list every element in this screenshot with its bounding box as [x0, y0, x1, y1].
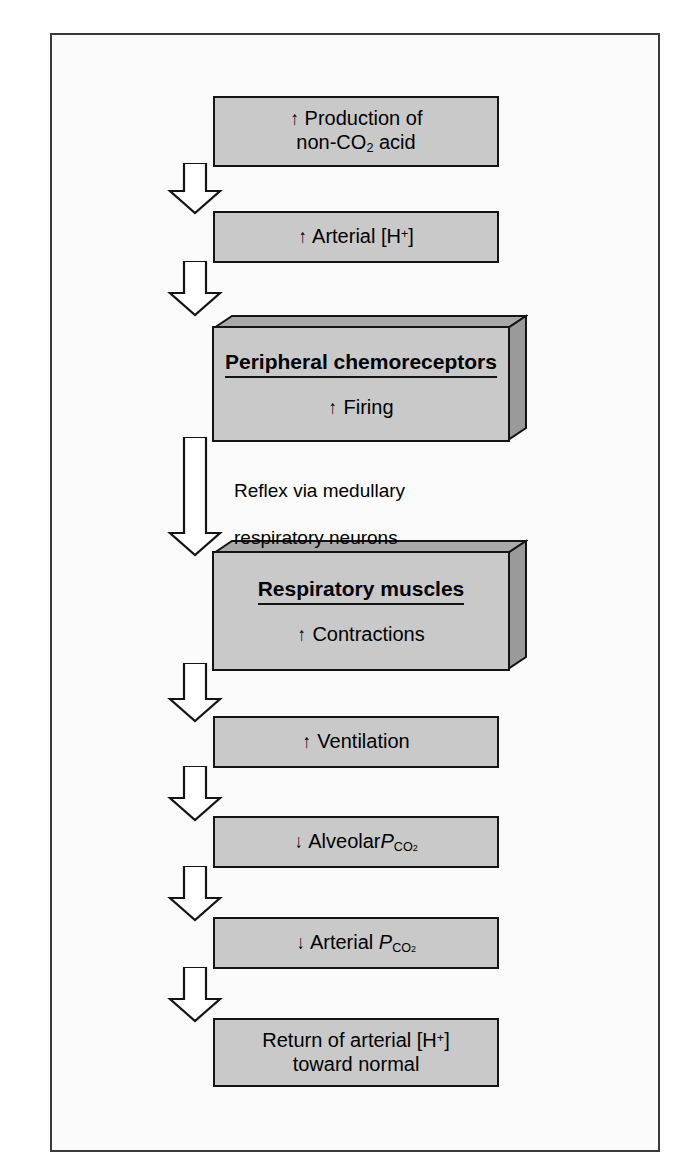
node-peripheral-chemoreceptors-title: Peripheral chemoreceptors [225, 350, 497, 378]
node-increased-ventilation: ↑ Ventilation [213, 716, 499, 768]
node-production-line2-tail: acid [373, 131, 415, 153]
node-peripheral-chemoreceptors-sub: ↑ Firing [328, 396, 393, 419]
increase-arrow-icon: ↑ [329, 397, 337, 419]
block-front-face: Respiratory muscles ↑ Contractions [212, 551, 510, 671]
node-alveolar-pco2-label: ↓ AlveolarPCO2 [215, 830, 497, 855]
flow-arrow-1 [166, 163, 224, 215]
increase-arrow-icon: ↑ [298, 624, 306, 646]
flow-arrow-4 [166, 663, 224, 723]
figure-root: ↑ Production of non-CO2 acid ↑ Arterial … [0, 0, 698, 1173]
flow-arrow-2 [166, 261, 224, 317]
flow-arrow-5 [166, 766, 224, 822]
node-return-toward-normal: Return of arterial [H+] toward normal [213, 1018, 499, 1087]
node-alveolar-pco2-text: Alveolar [304, 830, 381, 852]
node-return-line1-tail: ] [444, 1029, 450, 1051]
increase-arrow-icon: ↑ [290, 108, 298, 130]
node-increased-arterial-h: ↑ Arterial [H+] [213, 211, 499, 263]
node-arterial-pco2-sub-b: 2 [411, 944, 416, 954]
node-decreased-alveolar-pco2: ↓ AlveolarPCO2 [213, 816, 499, 868]
node-return-line1: Return of arterial [H [262, 1029, 437, 1051]
increase-arrow-icon: ↑ [303, 731, 311, 753]
node-arterial-h-text: Arterial [H [308, 225, 401, 247]
node-ventilation-text: Ventilation [312, 730, 410, 752]
block-front-face: Peripheral chemoreceptors ↑ Firing [212, 326, 510, 442]
node-respiratory-muscles-sub-text: Contractions [307, 623, 425, 645]
node-arterial-h-label: ↑ Arterial [H+] [215, 225, 497, 249]
node-production-of-non-co2-acid: ↑ Production of non-CO2 acid [213, 96, 499, 167]
decrease-arrow-icon: ↓ [295, 831, 303, 853]
node-arterial-pco2-text: Arterial [305, 931, 378, 953]
node-decreased-arterial-pco2: ↓ Arterial PCO2 [213, 917, 499, 969]
node-production-line2: non-CO [296, 131, 366, 153]
node-peripheral-chemoreceptors-sub-text: Firing [338, 396, 394, 418]
node-alveolar-pco2-sub-b: 2 [413, 843, 418, 853]
node-return-line2: toward normal [293, 1053, 420, 1075]
flow-arrow-7 [166, 967, 224, 1023]
node-return-label: Return of arterial [H+] toward normal [215, 1029, 497, 1076]
node-respiratory-muscles: Respiratory muscles ↑ Contractions [212, 539, 528, 671]
decrease-arrow-icon: ↓ [297, 932, 305, 954]
figure-frame: ↑ Production of non-CO2 acid ↑ Arterial … [50, 33, 660, 1152]
increase-arrow-icon: ↑ [299, 226, 307, 248]
node-arterial-pco2-sub-a: CO [392, 940, 411, 954]
node-arterial-h-tail: ] [408, 225, 414, 247]
annotation-reflex-line2: respiratory neurons [234, 527, 398, 548]
flow-arrow-6 [166, 866, 224, 922]
annotation-reflex-line1: Reflex via medullary [234, 480, 405, 501]
pressure-symbol: P [380, 830, 393, 852]
node-ventilation-label: ↑ Ventilation [215, 730, 497, 754]
node-arterial-pco2-label: ↓ Arterial PCO2 [215, 931, 497, 956]
annotation-reflex-pathway: Reflex via medullary respiratory neurons [234, 455, 464, 550]
node-respiratory-muscles-sub: ↑ Contractions [297, 623, 424, 646]
node-production-label: ↑ Production of non-CO2 acid [215, 107, 497, 155]
pressure-symbol: P [379, 931, 392, 953]
node-production-line1: Production of [299, 107, 422, 129]
node-alveolar-pco2-sub-a: CO [394, 839, 413, 853]
node-peripheral-chemoreceptors: Peripheral chemoreceptors ↑ Firing [212, 314, 528, 442]
node-respiratory-muscles-title: Respiratory muscles [258, 577, 465, 605]
